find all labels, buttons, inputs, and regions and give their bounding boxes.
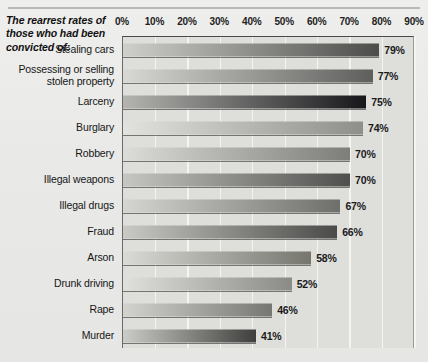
bar-row: 46% — [123, 297, 413, 323]
category-label-illegal-drugs: Illegal drugs — [59, 199, 114, 211]
plot-area: 79%77%75%74%70%70%67%66%58%52%46%41% — [122, 36, 414, 348]
category-label-murder: Murder — [82, 329, 114, 341]
category-label-line: Illegal weapons — [44, 173, 114, 185]
bar-illegal-drugs[interactable] — [123, 200, 340, 213]
x-tick-60: 60% — [307, 16, 326, 27]
bar-value-label: 70% — [355, 174, 375, 186]
bar-row: 41% — [123, 323, 413, 349]
bar-rape[interactable] — [123, 304, 272, 317]
bar-rows: 79%77%75%74%70%70%67%66%58%52%46%41% — [123, 37, 413, 348]
category-label-illegal-weapons: Illegal weapons — [44, 173, 114, 185]
chart-figure: The rearrest rates of those who had been… — [0, 0, 428, 362]
category-label-larceny: Larceny — [78, 95, 114, 107]
x-tick-90: 90% — [404, 16, 423, 27]
category-label-line: Larceny — [78, 95, 114, 107]
x-tick-70: 70% — [339, 16, 358, 27]
bar-row: 74% — [123, 115, 413, 141]
bar-value-label: 52% — [297, 278, 317, 290]
category-label-line: Robbery — [75, 147, 114, 159]
bar-row: 77% — [123, 63, 413, 89]
bar-arson[interactable] — [123, 252, 311, 265]
bar-value-label: 46% — [277, 304, 297, 316]
x-tick-0: 0% — [115, 16, 129, 27]
bar-burglary[interactable] — [123, 122, 363, 135]
x-axis-tick-labels: 0%10%20%30%40%50%60%70%80%90% — [122, 16, 414, 32]
x-tick-80: 80% — [372, 16, 391, 27]
category-label-drunk-driving: Drunk driving — [54, 277, 114, 289]
bar-row: 66% — [123, 219, 413, 245]
bar-value-label: 41% — [261, 330, 281, 342]
category-label-robbery: Robbery — [75, 147, 114, 159]
gridline-90 — [414, 37, 415, 348]
bar-row: 52% — [123, 271, 413, 297]
category-label-burglary: Burglary — [76, 121, 114, 133]
bar-value-label: 79% — [384, 44, 404, 56]
category-label-line: Stealing cars — [55, 43, 114, 55]
x-tick-20: 20% — [177, 16, 196, 27]
category-label-line: Arson — [87, 251, 114, 263]
x-tick-30: 30% — [210, 16, 229, 27]
bar-value-label: 67% — [345, 200, 365, 212]
category-label-line: Murder — [82, 329, 114, 341]
x-tick-40: 40% — [242, 16, 261, 27]
bar-value-label: 75% — [371, 96, 391, 108]
category-label-line: Fraud — [87, 225, 114, 237]
bar-drunk-driving[interactable] — [123, 278, 292, 291]
bar-row: 67% — [123, 193, 413, 219]
category-label-stealing-cars: Stealing cars — [55, 43, 114, 55]
category-labels: Stealing carsPossessing or sellingstolen… — [0, 36, 118, 348]
x-tick-50: 50% — [275, 16, 294, 27]
bar-row: 70% — [123, 141, 413, 167]
bar-value-label: 74% — [368, 122, 388, 134]
category-label-line: Drunk driving — [54, 277, 114, 289]
bar-possessing-or-selling-stolen-property[interactable] — [123, 70, 373, 83]
bar-larceny[interactable] — [123, 96, 366, 109]
category-label-arson: Arson — [87, 251, 114, 263]
category-label-line: Rape — [89, 303, 114, 315]
category-label-line: Burglary — [76, 121, 114, 133]
bar-fraud[interactable] — [123, 226, 337, 239]
category-label-line: stolen property — [19, 75, 114, 87]
bar-row: 75% — [123, 89, 413, 115]
bar-row: 58% — [123, 245, 413, 271]
category-label-possessing-or-selling-stolen-property: Possessing or sellingstolen property — [19, 63, 114, 88]
bar-row: 70% — [123, 167, 413, 193]
category-label-line: Illegal drugs — [59, 199, 114, 211]
category-label-line: Possessing or selling — [19, 63, 114, 75]
bar-illegal-weapons[interactable] — [123, 174, 350, 187]
bar-value-label: 77% — [378, 70, 398, 82]
bar-value-label: 66% — [342, 226, 362, 238]
category-label-fraud: Fraud — [87, 225, 114, 237]
bar-value-label: 70% — [355, 148, 375, 160]
x-tick-10: 10% — [145, 16, 164, 27]
top-divider — [8, 7, 420, 9]
bar-robbery[interactable] — [123, 148, 350, 161]
category-label-rape: Rape — [89, 303, 114, 315]
bar-value-label: 58% — [316, 252, 336, 264]
bar-row: 79% — [123, 37, 413, 63]
bar-murder[interactable] — [123, 330, 256, 343]
bar-stealing-cars[interactable] — [123, 44, 379, 57]
